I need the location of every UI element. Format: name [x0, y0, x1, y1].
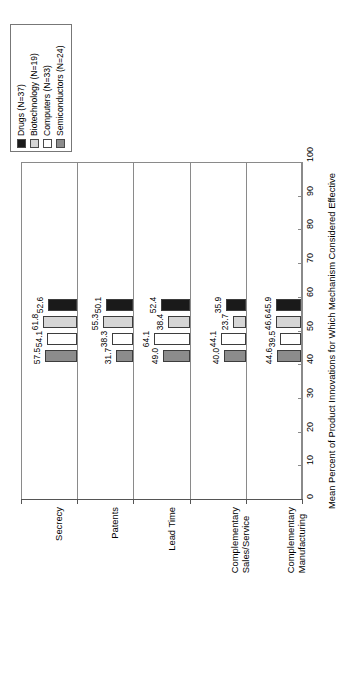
value-axis-title: Mean Percent of Product Innovations for … [327, 173, 337, 509]
bar-value-label: 23.7 [220, 309, 229, 335]
category-label-line: Lead Time [166, 507, 177, 551]
bar [168, 316, 189, 328]
legend-item: Semiconductors (N=24) [55, 26, 67, 148]
category-label: Patents [109, 507, 120, 539]
value-axis-tick [298, 432, 303, 433]
category-axis-tick [133, 499, 134, 504]
bar-row: 44.6 [247, 350, 301, 362]
legend-item-label: Biotechnology (N=19) [30, 53, 39, 136]
bar-row: 31.7 [78, 350, 133, 362]
bar-value-label: 40.0 [211, 343, 220, 369]
bar [47, 333, 77, 345]
bar-value-label: 49.0 [150, 343, 159, 369]
bar-row: 35.9 [191, 299, 246, 311]
legend-item: Computers (N=33) [42, 26, 54, 148]
value-axis-tick [298, 465, 303, 466]
value-axis-tick [298, 331, 303, 332]
bar [276, 316, 301, 328]
legend-swatch-icon [43, 139, 52, 148]
bar [48, 299, 77, 311]
value-axis-tick [298, 263, 303, 264]
category-label-line: Patents [109, 507, 120, 539]
value-axis-tick-label: 100 [306, 147, 315, 162]
bar [277, 350, 301, 362]
value-axis-tick [298, 297, 303, 298]
legend-swatch-icon [56, 139, 65, 148]
bar [43, 316, 77, 328]
legend-swatch-icon [17, 139, 26, 148]
legend-item: Drugs (N=37) [16, 26, 28, 148]
plot-area: 52.661.854.157.550.155.338.331.752.438.4… [21, 162, 302, 499]
category-label-line: Complementary [229, 507, 240, 573]
bar-value-label: 57.5 [33, 343, 42, 369]
category-axis-tick [190, 499, 191, 504]
bar-row: 54.1 [22, 333, 77, 345]
legend-item: Biotechnology (N=19) [29, 26, 41, 148]
category-axis-tick [21, 499, 22, 504]
value-axis-tick-label: 10 [306, 455, 315, 465]
category-label: ComplementaryManufacturing [285, 507, 307, 573]
value-axis-tick [298, 364, 303, 365]
value-axis-tick [298, 229, 303, 230]
value-axis-tick-label: 40 [306, 354, 315, 364]
category-label: Lead Time [166, 507, 177, 551]
bar [161, 299, 190, 311]
bar-row: 64.1 [134, 333, 189, 345]
legend-item-label: Semiconductors (N=24) [56, 45, 65, 136]
bar [163, 350, 190, 362]
category-axis-tick [77, 499, 78, 504]
value-axis-tick-label: 90 [306, 186, 315, 196]
category-axis-tick [302, 499, 303, 504]
bar [45, 350, 77, 362]
bar [276, 299, 301, 311]
value-axis-tick-label: 70 [306, 253, 315, 263]
bar [221, 333, 245, 345]
bar [154, 333, 189, 345]
bar [224, 350, 246, 362]
bar-row: 45.9 [247, 299, 301, 311]
bar [280, 333, 301, 345]
value-axis-tick-label: 30 [306, 388, 315, 398]
chart-group-panel: 45.946.639.544.6 [246, 162, 302, 499]
value-axis-tick [298, 398, 303, 399]
chart-group-panel: 52.438.464.149.0 [133, 162, 189, 499]
bar-row: 57.5 [22, 350, 77, 362]
bar [112, 333, 133, 345]
bar [106, 299, 134, 311]
bar-value-label: 38.4 [156, 309, 165, 335]
chart-group-panel: 35.923.744.140.0 [190, 162, 246, 499]
value-axis-tick-label: 50 [306, 320, 315, 330]
bar-row: 40.0 [191, 350, 246, 362]
bar-row: 39.5 [247, 333, 301, 345]
category-label-line: Manufacturing [296, 507, 307, 573]
value-axis-tick [298, 196, 303, 197]
bar-value-label: 44.6 [264, 343, 273, 369]
value-axis-tick [298, 162, 303, 163]
chart-legend: Drugs (N=37)Biotechnology (N=19)Computer… [10, 24, 72, 152]
chart-group-panel: 52.661.854.157.5 [21, 162, 77, 499]
value-axis-tick-label: 80 [306, 219, 315, 229]
bar-row: 61.8 [22, 316, 77, 328]
bar-value-label: 31.7 [103, 343, 112, 369]
category-label: ComplementarySales/Service [229, 507, 251, 573]
category-label-line: Sales/Service [240, 507, 251, 573]
legend-item-label: Drugs (N=37) [17, 84, 26, 136]
bar [116, 350, 133, 362]
value-axis-tick-label: 60 [306, 287, 315, 297]
category-label-line: Complementary [285, 507, 296, 573]
category-axis-tick [246, 499, 247, 504]
bar-row: 23.7 [191, 316, 246, 328]
value-axis: 0102030405060708090100 [302, 162, 303, 499]
bar-row: 49.0 [134, 350, 189, 362]
legend-item-label: Computers (N=33) [43, 65, 52, 136]
category-label-line: Secrecy [53, 507, 64, 541]
bar [233, 316, 246, 328]
chart-figure: Drugs (N=37)Biotechnology (N=19)Computer… [0, 0, 354, 696]
category-axis [21, 499, 303, 500]
legend-swatch-icon [30, 139, 39, 148]
chart-group-panel: 50.155.338.331.7 [77, 162, 133, 499]
category-label: Secrecy [53, 507, 64, 541]
bar-row: 50.1 [78, 299, 133, 311]
value-axis-tick-label: 0 [306, 494, 315, 499]
value-axis-tick-label: 20 [306, 422, 315, 432]
